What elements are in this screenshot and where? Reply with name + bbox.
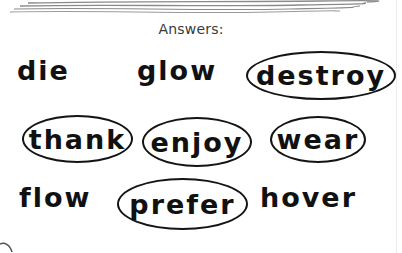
word-enjoy: enjoy — [151, 129, 244, 156]
circled-word-destroy: destroy — [246, 51, 396, 100]
word-hover: hover — [260, 184, 357, 211]
word-die: die — [17, 57, 70, 84]
page-edge-divider — [396, 0, 397, 253]
circled-word-wear: wear — [270, 116, 366, 163]
word-wear: wear — [277, 126, 360, 153]
circled-word-thank: thank — [22, 115, 133, 163]
circled-word-prefer: prefer — [117, 178, 248, 230]
word-prefer: prefer — [129, 191, 235, 218]
word-destroy: destroy — [256, 62, 386, 89]
word-thank: thank — [29, 126, 127, 153]
word-flow: flow — [19, 184, 92, 211]
corner-curl-mark — [0, 238, 16, 253]
circled-word-enjoy: enjoy — [142, 117, 252, 167]
word-glow: glow — [137, 57, 217, 84]
answers-heading: Answers: — [0, 21, 382, 37]
decorative-sketch-lines — [0, 0, 402, 18]
